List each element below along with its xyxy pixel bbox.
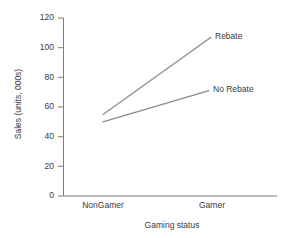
- series-label-rebate: Rebate: [215, 32, 242, 41]
- y-tick-label-0: 0: [26, 191, 54, 200]
- y-tick-label-100: 100: [26, 43, 54, 52]
- x-category-label-nongamer: NonGamer: [68, 201, 138, 210]
- y-axis-ticks: [58, 18, 64, 196]
- y-tick-label-20: 20: [26, 162, 54, 171]
- x-category-label-gamer: Gamer: [182, 201, 242, 210]
- x-axis-title: Gaming status: [63, 220, 281, 230]
- y-axis-title: Sales (units, 000s): [13, 34, 23, 174]
- line-chart: 0 20 40 60 80 100 120 NonGamer Gamer Reb…: [0, 0, 281, 238]
- y-tick-label-80: 80: [26, 73, 54, 82]
- y-tick-label-60: 60: [26, 102, 54, 111]
- series-line-rebate: [103, 37, 211, 114]
- series-line-no-rebate: [103, 91, 209, 122]
- y-tick-label-40: 40: [26, 132, 54, 141]
- series-label-no-rebate: No Rebate: [213, 85, 254, 94]
- y-tick-label-120: 120: [26, 13, 54, 22]
